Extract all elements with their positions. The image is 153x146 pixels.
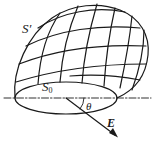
grid-line [82, 4, 97, 83]
label-angle-theta: θ [86, 101, 91, 112]
grid-line [132, 30, 144, 90]
angle-arc [80, 98, 84, 109]
curved-surface-outline [15, 5, 149, 98]
label-electric-field: E [107, 117, 115, 129]
label-flat-surface: S0 [42, 80, 53, 95]
grid-line [104, 8, 115, 86]
label-flat-surface-sub: 0 [49, 86, 53, 95]
grid-line [26, 27, 140, 46]
grid-line [16, 64, 146, 82]
label-curved-surface: S′ [22, 22, 31, 35]
